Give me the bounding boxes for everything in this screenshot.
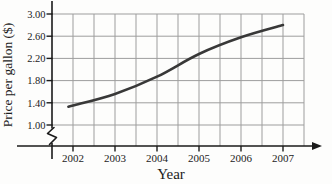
y-tick-label: 1.00 [27, 120, 45, 131]
x-tick-label: 2006 [230, 152, 253, 164]
axes [17, 1, 322, 159]
y-tick-label: 2.20 [27, 53, 45, 64]
y-tick-label: 1.40 [27, 98, 45, 109]
gridlines [52, 14, 304, 146]
x-tick-label: 2002 [62, 152, 84, 164]
y-tick-label: 3.00 [27, 9, 45, 20]
y-axis-label: Price per gallon ($) [0, 23, 15, 128]
x-tick-label: 2007 [272, 152, 295, 164]
x-tick-label: 2003 [104, 152, 127, 164]
price-line-series [68, 25, 283, 107]
y-tick-label: 1.80 [27, 75, 45, 86]
price-per-gallon-line-chart: 1.001.401.802.202.603.002002200320042005… [0, 0, 332, 184]
y-axis-break-icon [46, 128, 59, 145]
x-axis-label: Year [157, 166, 185, 182]
x-axis-arrowhead-icon [312, 142, 322, 150]
x-tick-label: 2004 [146, 152, 169, 164]
x-tick-label: 2005 [188, 152, 211, 164]
chart-canvas: 1.001.401.802.202.603.002002200320042005… [0, 0, 332, 184]
y-tick-label: 2.60 [27, 31, 45, 42]
